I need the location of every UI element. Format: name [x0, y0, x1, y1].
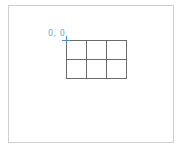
origin-coordinate-label: 0, 0: [48, 29, 65, 38]
origin-crosshair-icon: [66, 36, 67, 44]
table-grid[interactable]: [66, 40, 127, 79]
grid-row-divider: [67, 59, 126, 60]
